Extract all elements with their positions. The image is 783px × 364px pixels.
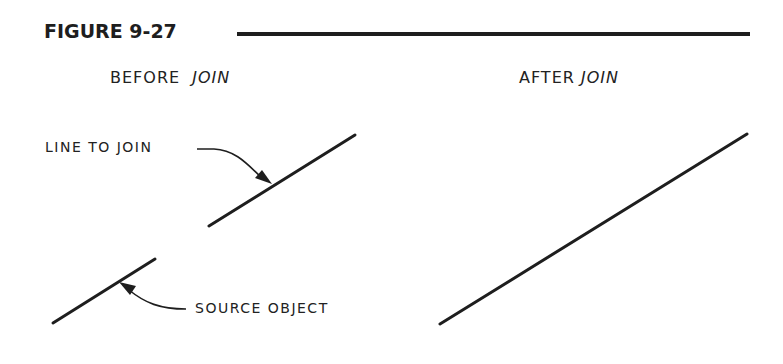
figure-9-27: FIGURE 9-27 BEFORE JOIN AFTER JOIN LINE …	[0, 0, 783, 364]
joined-line	[440, 134, 747, 324]
diagram-canvas	[0, 0, 783, 364]
source-object-line	[53, 259, 155, 323]
source-object-leader	[129, 290, 186, 309]
line-to-join-arrowhead-icon	[255, 170, 272, 184]
line-to-join	[209, 135, 355, 226]
line-to-join-leader	[197, 149, 262, 178]
